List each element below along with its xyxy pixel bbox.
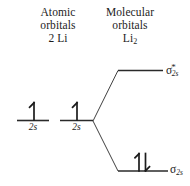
- label-sigma-star-subscript: 2s: [172, 69, 179, 78]
- sublabel-ao-right-2s: 2s: [60, 122, 93, 132]
- electron-arrow-pair-up-down-icon: [134, 152, 152, 172]
- electron-arrow-up-icon: [70, 101, 84, 121]
- electrons-ao-right: [70, 101, 84, 121]
- diagram-linework: [0, 0, 190, 186]
- correlation-line-upper: [93, 71, 118, 122]
- correlation-line-lower: [93, 121, 118, 171]
- electrons-ao-left: [27, 101, 41, 121]
- label-sigma-2s-star: σ*2s: [166, 62, 178, 78]
- electrons-sigma-2s: [134, 152, 152, 172]
- label-sigma-subscript: 2s: [176, 168, 183, 177]
- sublabel-ao-left-2s: 2s: [17, 122, 49, 132]
- mo-diagram: Atomic orbitals 2 Li Molecular orbitals …: [0, 0, 190, 186]
- label-sigma-2s: σ2s: [170, 163, 183, 177]
- electron-arrow-up-icon: [27, 101, 41, 121]
